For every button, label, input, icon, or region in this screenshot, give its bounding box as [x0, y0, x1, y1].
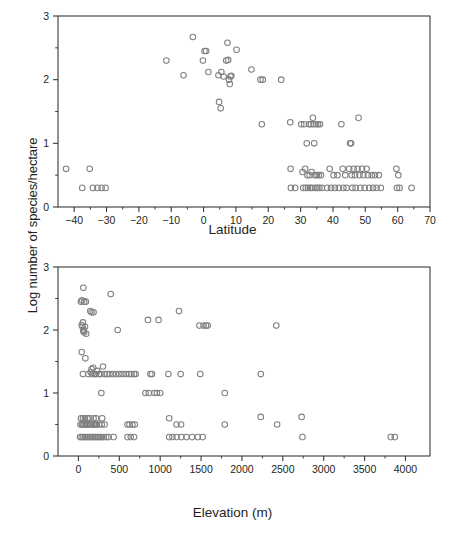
data-point — [218, 106, 224, 112]
data-point — [249, 67, 255, 73]
data-point — [156, 317, 162, 323]
data-point — [63, 166, 69, 172]
data-point — [327, 166, 333, 172]
data-point — [99, 390, 105, 396]
data-point — [189, 434, 195, 440]
data-point-group — [77, 285, 397, 440]
scatter-panel-latitude: −40−30−20−100102030405060700123 Latitude — [0, 0, 449, 255]
data-point — [339, 121, 345, 127]
y-tick-label: 3 — [43, 261, 49, 273]
x-tick-label: 1000 — [149, 463, 173, 475]
data-point — [287, 120, 293, 126]
data-point — [100, 364, 106, 370]
data-point — [356, 115, 362, 121]
x-tick-label: 2000 — [230, 463, 254, 475]
x-axis-label-latitude: Latitude — [8, 222, 449, 237]
data-point — [166, 371, 172, 377]
y-tick-label: 0 — [43, 201, 49, 213]
data-point — [304, 141, 310, 147]
data-point — [200, 58, 206, 64]
data-point — [103, 185, 109, 191]
y-tick-label: 1 — [43, 387, 49, 399]
x-tick-label: 500 — [111, 463, 129, 475]
data-point — [342, 172, 348, 178]
y-tick-label: 2 — [43, 324, 49, 336]
data-point — [311, 141, 317, 147]
data-point — [176, 308, 182, 314]
x-tick-label: 3500 — [353, 463, 377, 475]
data-point — [310, 115, 316, 121]
x-axis-label-elevation: Elevation (m) — [8, 505, 449, 520]
data-point — [197, 371, 203, 377]
data-point — [376, 172, 382, 178]
figure-container: Log number of species/hectare −40−30−20−… — [0, 0, 449, 535]
data-point — [83, 356, 89, 362]
data-point — [79, 185, 85, 191]
data-point — [115, 327, 121, 333]
data-point — [392, 434, 398, 440]
data-point — [234, 47, 240, 53]
data-point — [259, 121, 265, 127]
y-tick-label: 3 — [43, 10, 49, 22]
data-point — [108, 291, 114, 297]
x-tick-label: 3000 — [312, 463, 336, 475]
data-point — [221, 74, 227, 80]
y-tick-label: 2 — [43, 73, 49, 85]
data-point — [300, 434, 306, 440]
data-point — [166, 415, 172, 421]
data-point — [258, 371, 264, 377]
data-point — [79, 349, 85, 355]
data-point — [190, 34, 196, 40]
x-tick-label: 2500 — [271, 463, 295, 475]
x-tick-label: 4000 — [394, 463, 418, 475]
data-point-group — [63, 34, 414, 190]
x-tick-label: 1500 — [189, 463, 213, 475]
data-point — [145, 317, 151, 323]
data-point — [206, 69, 212, 75]
data-point — [396, 172, 402, 178]
y-tick-label: 1 — [43, 137, 49, 149]
x-tick-label: 0 — [76, 463, 82, 475]
data-point — [299, 414, 305, 420]
data-point — [222, 390, 228, 396]
data-point — [288, 166, 294, 172]
scatter-panel-elevation: 050010001500200025003000350040000123 Ele… — [0, 255, 449, 535]
data-point — [378, 185, 384, 191]
data-point — [81, 285, 87, 291]
data-point — [80, 371, 86, 377]
data-point — [274, 422, 280, 428]
data-point — [87, 166, 93, 172]
data-point — [292, 185, 298, 191]
data-point — [99, 415, 105, 421]
data-point — [178, 371, 184, 377]
y-tick-label: 0 — [43, 450, 49, 462]
latitude-plot-area: −40−30−20−100102030405060700123 — [0, 0, 449, 255]
data-point — [258, 414, 264, 420]
data-point — [335, 172, 341, 178]
data-point — [222, 422, 228, 428]
data-point — [216, 99, 222, 105]
elevation-plot-area: 050010001500200025003000350040000123 — [0, 255, 449, 535]
data-point — [409, 185, 415, 191]
data-point — [340, 166, 346, 172]
data-point — [278, 77, 284, 83]
data-point — [273, 323, 279, 329]
data-point — [164, 58, 170, 64]
data-point — [225, 40, 231, 46]
data-point — [181, 72, 187, 78]
data-point — [394, 166, 400, 172]
